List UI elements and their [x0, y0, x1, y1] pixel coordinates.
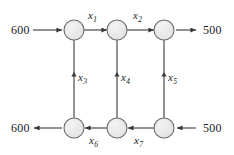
node-top-middle	[107, 20, 127, 40]
demand-bottom-left-value: 600	[11, 121, 30, 136]
node-bottom-right	[154, 118, 174, 138]
edge-x5	[161, 40, 166, 118]
edge-label-x4-sub: 4	[126, 77, 130, 86]
network-flow-diagram: 600 500 600 500 x1 x2 x3 x4 x5 x6 x7	[0, 0, 234, 155]
node-bottom-left	[64, 118, 84, 138]
edge-label-x6-sub: 6	[94, 140, 98, 149]
supply-bottom-right-value: 500	[203, 121, 222, 136]
node-bottom-middle	[107, 118, 127, 138]
edge-label-x5: x5	[168, 71, 177, 83]
edge-x5-arrowhead	[161, 72, 166, 77]
node-top-right	[154, 20, 174, 40]
edge-label-x2: x2	[133, 9, 142, 21]
edge-label-x2-sub: 2	[138, 15, 142, 24]
edge-x4	[114, 40, 119, 118]
edge-label-x1-sub: 1	[93, 15, 97, 24]
edge-label-x6: x6	[89, 134, 98, 146]
demand-top-right-value: 500	[203, 23, 222, 38]
supply-top-left-value: 600	[11, 23, 30, 38]
edge-label-x7: x7	[134, 134, 143, 146]
edge-x3	[71, 40, 76, 118]
edge-label-x3-sub: 3	[83, 77, 87, 86]
diagram-canvas	[0, 0, 234, 155]
edge-x3-arrowhead	[71, 72, 76, 77]
node-top-left	[64, 20, 84, 40]
edge-x4-arrowhead	[114, 72, 119, 77]
edge-label-x3: x3	[78, 71, 87, 83]
edge-label-x4: x4	[121, 71, 130, 83]
edge-label-x1: x1	[88, 9, 97, 21]
edge-label-x7-sub: 7	[139, 140, 143, 149]
edge-label-x5-sub: 5	[173, 77, 177, 86]
